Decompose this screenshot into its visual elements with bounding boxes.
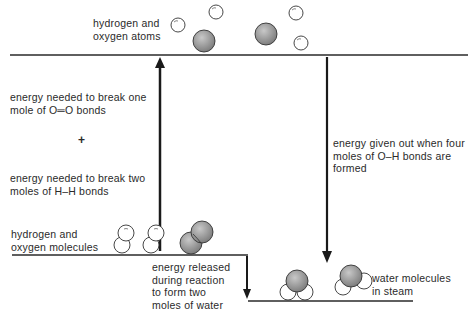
molecules-level-label: hydrogen and oxygen molecules	[11, 228, 98, 253]
plus-sign: +	[78, 134, 85, 147]
hydrogen-molecule-icon	[114, 225, 134, 253]
break-oo-bonds-annotation: energy needed to break one mole of O═O b…	[10, 91, 147, 116]
net-energy-arrow	[243, 256, 251, 299]
water-molecule-icon	[280, 270, 313, 300]
bond-forming-arrow	[322, 57, 332, 263]
hydrogen-atom-icon	[209, 5, 223, 19]
hydrogen-atom-icon	[171, 18, 185, 32]
hydrogen-atom-icon	[289, 6, 303, 20]
oxygen-molecule-icon	[180, 221, 213, 254]
atoms-level-label: hydrogen and oxygen atoms	[93, 17, 161, 42]
break-hh-bonds-annotation: energy needed to break two moles of H–H …	[10, 172, 145, 197]
form-oh-bonds-annotation: energy given out when four moles of O–H …	[333, 137, 465, 175]
water-level-label: water molecules in steam	[372, 272, 451, 297]
bond-breaking-arrow	[155, 57, 165, 251]
oxygen-atom-icon	[193, 30, 215, 52]
energy-released-annotation: energy released during reaction to form …	[152, 261, 230, 310]
hydrogen-atom-icon	[294, 36, 308, 50]
oxygen-atom-icon	[255, 23, 277, 45]
water-molecule-icon	[335, 265, 372, 295]
